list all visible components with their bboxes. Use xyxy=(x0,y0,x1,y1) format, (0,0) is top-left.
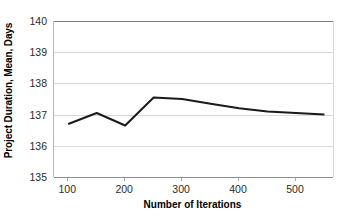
x-tick-mark-400 xyxy=(238,177,239,181)
y-tick-label-135: 135 xyxy=(29,171,47,183)
x-axis-tick-marks xyxy=(53,177,332,182)
y-tick-label-136: 136 xyxy=(29,140,47,152)
x-tick-label-500: 500 xyxy=(286,183,304,195)
y-axis-title: Project Duration, Mean, Days xyxy=(0,0,18,180)
x-tick-label-100: 100 xyxy=(58,183,76,195)
plot-area xyxy=(53,21,334,177)
series-line-project-duration xyxy=(68,97,324,125)
x-tick-mark-500 xyxy=(295,177,296,181)
y-axis-title-label: Project Duration, Mean, Days xyxy=(4,22,15,158)
x-tick-label-400: 400 xyxy=(229,183,247,195)
y-axis-tick-labels: 135136137138139140 xyxy=(18,21,51,177)
x-tick-mark-200 xyxy=(124,177,125,181)
y-tick-label-139: 139 xyxy=(29,46,47,58)
line-chart: Project Duration, Mean, Days 13513613713… xyxy=(0,0,354,224)
x-tick-label-200: 200 xyxy=(115,183,133,195)
x-axis-tick-labels: 100200300400500 xyxy=(53,183,332,197)
y-tick-label-138: 138 xyxy=(29,77,47,89)
x-tick-mark-300 xyxy=(181,177,182,181)
x-tick-mark-100 xyxy=(67,177,68,181)
x-axis-title: Number of Iterations xyxy=(53,199,332,210)
x-tick-label-300: 300 xyxy=(172,183,190,195)
y-tick-label-140: 140 xyxy=(29,15,47,27)
y-tick-label-137: 137 xyxy=(29,109,47,121)
series-line-chart xyxy=(54,21,333,177)
